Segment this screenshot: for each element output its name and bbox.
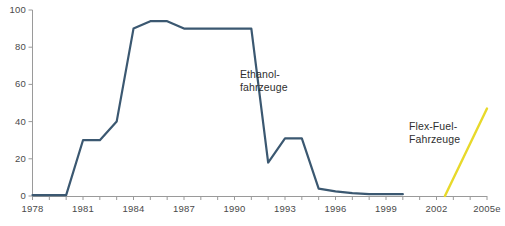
x-axis-tick-label: 1993 [265, 203, 305, 214]
x-axis-tick-label: 2005e [467, 203, 505, 214]
x-axis-tick-label: 2002 [417, 203, 457, 214]
x-axis-tick-label: 1987 [164, 203, 204, 214]
ethanol-series-annotation: Ethanol- fahrzeuge [240, 68, 288, 93]
y-axis-tick-label: 80 [0, 41, 26, 52]
x-axis-tick-label: 1990 [215, 203, 255, 214]
flex-fuel-series-annotation: Flex-Fuel- Fahrzeuge [409, 120, 460, 145]
x-axis-tick-label: 1984 [114, 203, 154, 214]
y-axis-tick-label: 20 [0, 153, 26, 164]
x-axis-tick-label: 1996 [316, 203, 356, 214]
chart-axes [29, 10, 488, 200]
y-axis-tick-label: 0 [0, 190, 26, 201]
x-axis-tick-label: 1981 [63, 203, 103, 214]
ethanol-line-series [33, 21, 403, 195]
y-axis-tick-label: 100 [0, 4, 26, 15]
x-axis-tick-label: 1999 [366, 203, 406, 214]
y-axis-tick-marks [29, 10, 33, 196]
flex-fuel-annotation-line2: Fahrzeuge [409, 133, 460, 146]
ethanol-annotation-line1: Ethanol- [240, 68, 288, 81]
ethanol-annotation-line2: fahrzeuge [240, 81, 288, 94]
y-axis-tick-label: 40 [0, 116, 26, 127]
chart-series-group [33, 21, 488, 196]
flex-fuel-annotation-line1: Flex-Fuel- [409, 120, 460, 133]
x-axis-tick-label: 1978 [13, 203, 53, 214]
y-axis-tick-label: 60 [0, 78, 26, 89]
